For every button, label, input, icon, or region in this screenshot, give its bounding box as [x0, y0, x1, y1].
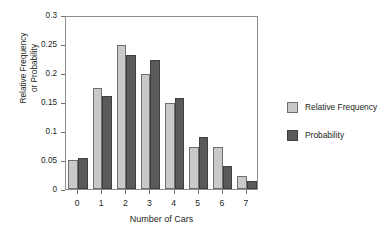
- bar-rf-2: [117, 45, 127, 189]
- legend-swatch-icon-relative-frequency: [287, 102, 298, 113]
- y-tick-label: 0.05: [23, 157, 57, 165]
- y-tick-label: 0.1: [23, 128, 57, 136]
- bar-pr-0: [78, 158, 88, 189]
- y-tick-label: 0: [23, 186, 57, 194]
- x-tick-label: 4: [167, 199, 181, 208]
- legend-label-relative-frequency: Relative Frequency: [305, 103, 377, 112]
- bar-rf-1: [93, 88, 103, 189]
- x-tick-label: 3: [142, 199, 156, 208]
- x-tick-mark: [125, 190, 126, 194]
- y-tick-label: 0.25: [23, 41, 57, 49]
- bar-pr-2: [126, 55, 136, 189]
- x-tick-label: 7: [239, 199, 253, 208]
- legend-item-probability: Probability: [287, 129, 391, 142]
- bar-pr-4: [175, 98, 185, 189]
- bar-pr-3: [150, 60, 160, 189]
- bar-pr-7: [247, 181, 257, 189]
- x-tick-mark: [77, 190, 78, 194]
- bar-rf-3: [141, 74, 151, 189]
- y-tick-label: 0.15: [23, 99, 57, 107]
- bar-rf-0: [68, 160, 78, 189]
- bar-pr-5: [199, 137, 209, 189]
- legend-item-relative-frequency: Relative Frequency: [287, 101, 391, 114]
- y-tick-mark: [61, 190, 65, 191]
- plot-area: [65, 16, 258, 190]
- legend: Relative Frequency Probability: [287, 101, 391, 157]
- bar-rf-7: [237, 176, 247, 189]
- y-tick-label: 0.2: [23, 70, 57, 78]
- x-tick-label: 2: [118, 199, 132, 208]
- x-tick-mark: [149, 190, 150, 194]
- x-axis-title: Number of Cars: [65, 214, 258, 224]
- x-tick-mark: [222, 190, 223, 194]
- x-tick-label: 1: [94, 199, 108, 208]
- bar-rf-6: [213, 147, 223, 189]
- x-tick-mark: [174, 190, 175, 194]
- y-tick-label: 0.3: [23, 12, 57, 20]
- x-tick-mark: [246, 190, 247, 194]
- legend-label-probability: Probability: [305, 131, 344, 140]
- x-tick-mark: [101, 190, 102, 194]
- legend-swatch-icon-probability: [287, 130, 298, 141]
- bar-pr-6: [223, 166, 233, 189]
- x-tick-label: 6: [215, 199, 229, 208]
- bar-rf-5: [189, 147, 199, 189]
- x-tick-mark: [198, 190, 199, 194]
- x-tick-label: 5: [191, 199, 205, 208]
- x-tick-label: 0: [70, 199, 84, 208]
- bar-rf-4: [165, 103, 175, 189]
- bar-pr-1: [102, 96, 112, 189]
- chart-container: Relative Frequency or Probability 00.050…: [0, 0, 392, 242]
